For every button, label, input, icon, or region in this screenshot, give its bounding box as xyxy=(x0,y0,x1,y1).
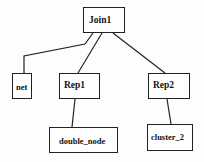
tree-diagram: Join1 net Rep1 Rep2 double_node cluster_… xyxy=(0,0,204,162)
edge-join1-rep2 xyxy=(113,33,165,73)
node-rep1: Rep1 xyxy=(59,73,100,99)
node-label: net xyxy=(16,82,27,92)
node-label: Rep2 xyxy=(153,80,174,90)
node-cluster-2: cluster_2 xyxy=(147,124,193,151)
edge-rep2-cluster-2 xyxy=(167,99,171,124)
node-net: net xyxy=(12,73,32,99)
edge-join1-net xyxy=(24,33,93,73)
node-join1: Join1 xyxy=(83,7,125,33)
edge-join1-rep1 xyxy=(78,33,102,73)
node-label: Rep1 xyxy=(64,80,85,90)
node-double-node: double_node xyxy=(49,127,118,153)
node-rep2: Rep2 xyxy=(148,73,190,99)
node-label: cluster_2 xyxy=(151,132,184,142)
edge-rep1-double-node xyxy=(72,99,75,127)
node-label: Join1 xyxy=(89,15,111,25)
node-label: double_node xyxy=(59,136,105,146)
